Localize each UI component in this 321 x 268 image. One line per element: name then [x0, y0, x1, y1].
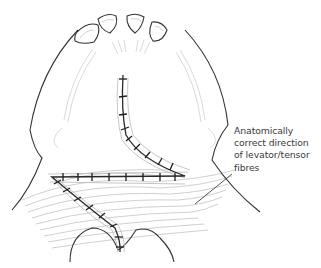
palate-outline	[12, 30, 260, 262]
rugae-shading	[54, 40, 216, 148]
annotation-line-3: of levator/tensor	[234, 149, 321, 161]
muscle-fibres	[22, 170, 235, 248]
teeth	[75, 14, 167, 43]
annotation-line-1: Anatomically	[234, 125, 321, 137]
annotation-line-4: fibres	[234, 162, 321, 174]
flap-borders	[48, 78, 190, 252]
annotation-line-2: correct direction	[234, 137, 321, 149]
annotation-label: Anatomically correct direction of levato…	[234, 125, 321, 174]
annotation-leader	[195, 174, 232, 204]
